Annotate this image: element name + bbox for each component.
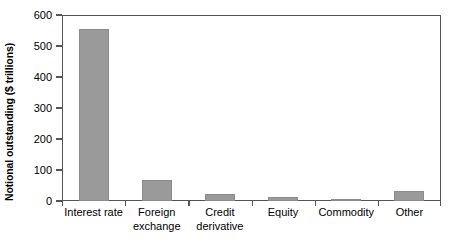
- x-axis-category-label: Creditderivative: [188, 206, 251, 233]
- x-axis-category-line: exchange: [125, 220, 188, 234]
- x-axis-category-line: Interest rate: [62, 206, 125, 220]
- y-axis-tick-label: 0: [46, 193, 52, 209]
- y-axis-tick-label: 200: [34, 131, 52, 147]
- x-axis-category-line: Foreign: [125, 206, 188, 220]
- y-axis-tick-label: 100: [34, 162, 52, 178]
- y-axis-tick-label: 500: [34, 38, 52, 54]
- bar-chart: Notional outstanding ($ trillions) 01002…: [0, 0, 456, 244]
- bar: [79, 29, 109, 201]
- x-axis-category-label: Other: [378, 206, 441, 220]
- x-axis-category-label: Equity: [252, 206, 315, 220]
- y-axis-tick-label: 400: [34, 69, 52, 85]
- bar: [205, 194, 235, 201]
- x-axis-category-line: Commodity: [315, 206, 378, 220]
- bar: [394, 191, 424, 201]
- bars-layer: [62, 15, 441, 201]
- x-axis-category-label: Foreignexchange: [125, 206, 188, 233]
- x-axis-category-label: Commodity: [315, 206, 378, 220]
- x-axis-category-line: Equity: [252, 206, 315, 220]
- x-axis-category-line: Credit: [188, 206, 251, 220]
- x-axis-category-line: Other: [378, 206, 441, 220]
- x-axis-category-line: derivative: [188, 220, 251, 234]
- x-axis-category-label: Interest rate: [62, 206, 125, 220]
- bar: [142, 180, 172, 201]
- y-axis-ticks: 0100200300400500600: [0, 0, 62, 244]
- y-axis-tick-label: 300: [34, 100, 52, 116]
- y-axis-tick-label: 600: [34, 7, 52, 23]
- x-axis-labels: Interest rateForeignexchangeCreditderiva…: [62, 206, 441, 242]
